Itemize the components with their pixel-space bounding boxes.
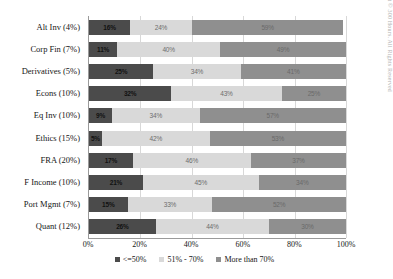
- bar-row: 26%44%30%: [89, 219, 346, 234]
- bar-row: 32%43%25%: [89, 86, 346, 101]
- category-label: F Income (10%): [24, 175, 80, 190]
- legend-swatch-icon: [216, 257, 221, 262]
- bar-segment: 15%: [89, 197, 128, 212]
- bar-segment: 59%: [192, 20, 344, 35]
- bar-segment: 34%: [153, 64, 240, 79]
- plot-area: 16%24%59%11%40%49%25%34%41%32%43%25%9%34…: [88, 16, 346, 238]
- bar-row: 21%45%34%: [89, 175, 346, 190]
- bar-segment: 11%: [89, 42, 117, 57]
- x-axis-tick-label: 20%: [132, 240, 147, 249]
- bar-row: 15%33%52%: [89, 197, 346, 212]
- bar-segment: 46%: [133, 153, 251, 168]
- category-label: Alt Inv (4%): [37, 20, 80, 35]
- category-axis: Alt Inv (4%)Corp Fin (7%)Derivatives (5%…: [0, 16, 84, 238]
- legend-label: More than 70%: [224, 255, 274, 264]
- bar-segment: 34%: [259, 175, 346, 190]
- x-axis-tick-label: 100%: [337, 240, 356, 249]
- legend-label: <=50%: [123, 255, 147, 264]
- bar-segment: 17%: [89, 153, 133, 168]
- bar-segment: 43%: [171, 86, 282, 101]
- bar-segment: 25%: [282, 86, 346, 101]
- bar-segment: 41%: [241, 64, 346, 79]
- bar-segment: 53%: [210, 131, 346, 146]
- bar-segment: 37%: [251, 153, 346, 168]
- legend-item[interactable]: 51% - 70%: [159, 255, 203, 264]
- bar-segment: 33%: [128, 197, 213, 212]
- category-label: FRA (20%): [41, 153, 80, 168]
- bar-row: 9%34%57%: [89, 108, 346, 123]
- bar-segment: 45%: [143, 175, 259, 190]
- bar-segment: 9%: [89, 108, 112, 123]
- bar-segment: 24%: [130, 20, 192, 35]
- bar-segment: 25%: [89, 64, 153, 79]
- category-label: Corp Fin (7%): [30, 42, 80, 57]
- category-label: Port Mgmt (7%): [24, 197, 80, 212]
- bar-segment: 52%: [212, 197, 346, 212]
- bar-row: 17%46%37%: [89, 153, 346, 168]
- bar-rows: 16%24%59%11%40%49%25%34%41%32%43%25%9%34…: [89, 16, 346, 238]
- category-label: Derivatives (5%): [22, 64, 80, 79]
- legend-swatch-icon: [159, 257, 164, 262]
- x-axis-tick-label: 80%: [287, 240, 302, 249]
- bar-segment: 57%: [200, 108, 346, 123]
- bar-segment: 34%: [112, 108, 199, 123]
- legend-label: 51% - 70%: [167, 255, 203, 264]
- bar-row: 11%40%49%: [89, 42, 346, 57]
- gridline: [346, 16, 347, 238]
- x-axis: 0%20%40%60%80%100%: [88, 238, 346, 252]
- bar-row: 25%34%41%: [89, 64, 346, 79]
- bar-segment: 32%: [89, 86, 171, 101]
- copyright-watermark: Copyright © 300 Hours. All Rights Reserv…: [387, 0, 393, 92]
- bar-segment: 5%: [89, 131, 102, 146]
- legend-swatch-icon: [115, 257, 120, 262]
- x-axis-tick-label: 40%: [184, 240, 199, 249]
- bar-segment: 49%: [220, 42, 346, 57]
- category-label: Econs (10%): [36, 86, 80, 101]
- bar-segment: 42%: [102, 131, 210, 146]
- legend-item[interactable]: More than 70%: [216, 255, 274, 264]
- bar-segment: 44%: [156, 219, 269, 234]
- bar-row: 16%24%59%: [89, 20, 346, 35]
- bar-segment: 26%: [89, 219, 156, 234]
- category-label: Ethics (15%): [35, 131, 80, 146]
- category-label: Quant (12%): [36, 219, 80, 234]
- legend: <=50%51% - 70%More than 70%: [0, 255, 389, 264]
- category-label: Eq Inv (10%): [34, 108, 80, 123]
- x-axis-tick-label: 0%: [83, 240, 94, 249]
- bar-row: 5%42%53%: [89, 131, 346, 146]
- legend-item[interactable]: <=50%: [115, 255, 147, 264]
- x-axis-tick-label: 60%: [235, 240, 250, 249]
- bar-segment: 21%: [89, 175, 143, 190]
- bar-segment: 30%: [269, 219, 346, 234]
- bar-segment: 16%: [89, 20, 130, 35]
- bar-segment: 40%: [117, 42, 220, 57]
